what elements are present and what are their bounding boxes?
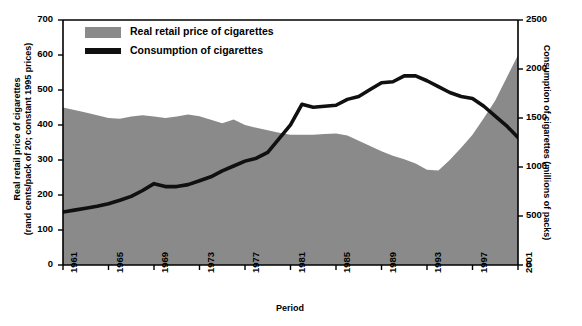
y-axis-right-tick-label: 1500 <box>526 111 560 122</box>
y-axis-left-title-line2: (rand cents/pack of 20; constant 1995 pr… <box>23 43 33 236</box>
y-axis-left-tick-label: 500 <box>23 83 53 94</box>
y-axis-right-tick-label: 1000 <box>526 160 560 171</box>
chart-figure: Real retail price of cigarettes (rand ce… <box>0 0 582 326</box>
x-axis-tick-label: 1985 <box>341 252 352 273</box>
x-axis-title: Period <box>190 303 390 314</box>
x-axis-tick-label: 1961 <box>68 252 79 273</box>
y-axis-left-tick-label: 400 <box>23 118 53 129</box>
y-axis-left-title-line1: Real retail price of cigarettes <box>12 77 22 200</box>
x-axis-tick-label: 1981 <box>296 252 307 273</box>
x-axis-tick-label: 1965 <box>114 252 125 273</box>
y-axis-right-title: Consumption of cigarettes (millions of p… <box>541 13 552 273</box>
legend-swatch-line-icon <box>85 48 121 54</box>
legend-label-consumption: Consumption of cigarettes <box>130 44 263 56</box>
legend-swatch-area-icon <box>85 27 121 38</box>
x-axis-tick-label: 1997 <box>478 252 489 273</box>
x-axis-tick-label: 1989 <box>387 252 398 273</box>
x-axis-tick-label: 1969 <box>159 252 170 273</box>
y-axis-right-tick-label: 500 <box>526 209 560 220</box>
x-axis-tick-label: 1973 <box>205 252 216 273</box>
y-axis-right-tick-label: 2500 <box>526 13 560 24</box>
y-axis-left-tick-label: 100 <box>23 223 53 234</box>
y-axis-right-tick-label: 2000 <box>526 62 560 73</box>
y-axis-left-tick-label: 300 <box>23 153 53 164</box>
y-axis-left-tick-label: 600 <box>23 48 53 59</box>
y-axis-left-tick-label: 700 <box>23 13 53 24</box>
y-axis-left-tick-label: 200 <box>23 188 53 199</box>
x-axis-tick-label: 1977 <box>250 252 261 273</box>
x-axis-tick-label: 2001 <box>523 252 534 273</box>
legend-label-real-retail-price: Real retail price of cigarettes <box>130 25 274 37</box>
y-axis-left-tick-label: 0 <box>23 258 53 269</box>
x-axis-tick-label: 1993 <box>432 252 443 273</box>
